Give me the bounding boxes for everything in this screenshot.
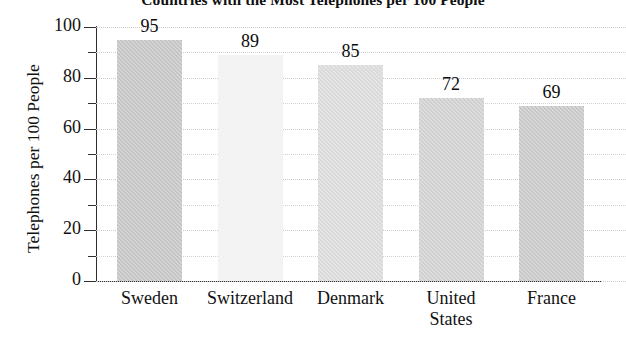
category-label-denmark: Denmark (296, 288, 405, 309)
category-label-sweden: Sweden (95, 288, 204, 309)
y-tick-label-0: 0 (21, 269, 81, 290)
bar-value-france: 69 (501, 82, 602, 103)
chart-title: Countries with the Most Telephones per 1… (0, 0, 626, 9)
category-label-line: United (397, 288, 506, 309)
category-label-line: Denmark (296, 288, 405, 309)
bar-denmark (318, 65, 383, 281)
category-label-line: France (497, 288, 606, 309)
bar-united-states (419, 98, 484, 281)
y-tick-label-40: 40 (21, 167, 81, 188)
bar-value-switzerland: 89 (200, 31, 301, 52)
category-label-united-states: UnitedStates (397, 288, 506, 330)
y-axis-label: Telephones per 100 People (23, 19, 44, 299)
plot-area (96, 27, 626, 281)
bar-value-sweden: 95 (99, 16, 200, 37)
category-label-france: France (497, 288, 606, 309)
category-label-line: Sweden (95, 288, 204, 309)
bar-france (519, 106, 584, 281)
gridline-0 (96, 281, 626, 282)
bar-value-united-states: 72 (401, 74, 502, 95)
bar-chart-figure: Countries with the Most Telephones per 1… (0, 0, 626, 343)
y-tick-label-80: 80 (21, 66, 81, 87)
category-label-line: Switzerland (196, 288, 305, 309)
y-tick-label-60: 60 (21, 117, 81, 138)
y-tick-label-100: 100 (21, 15, 81, 36)
category-label-switzerland: Switzerland (196, 288, 305, 309)
category-label-line: States (397, 309, 506, 330)
bar-value-denmark: 85 (300, 41, 401, 62)
bar-sweden (117, 40, 182, 281)
y-tick-label-20: 20 (21, 218, 81, 239)
bar-switzerland (218, 55, 283, 281)
